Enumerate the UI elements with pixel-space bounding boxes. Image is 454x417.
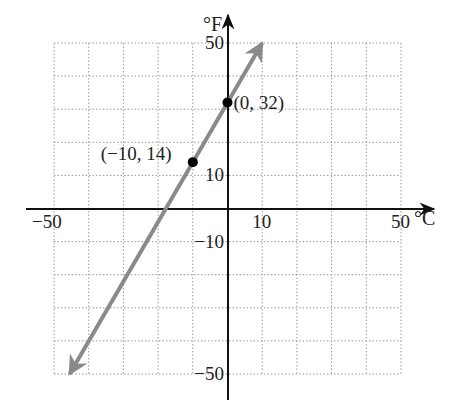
- y-tick-label: −10: [194, 231, 224, 252]
- y-axis-label: °F: [203, 13, 222, 35]
- x-axis-label: °C: [414, 207, 435, 229]
- point-label: (−10, 14): [101, 143, 172, 165]
- data-point: [188, 157, 198, 167]
- point-label: (0, 32): [234, 92, 285, 114]
- data-point: [223, 98, 233, 108]
- x-tick-label: 50: [391, 211, 410, 232]
- x-tick-label: −50: [32, 211, 62, 232]
- temperature-conversion-chart: (0, 32)(−10, 14) −5010505010−10−50 °F °C: [0, 0, 454, 417]
- y-tick-label: −50: [194, 363, 224, 384]
- x-tick-label: 10: [252, 211, 271, 232]
- y-tick-label: 10: [205, 164, 224, 185]
- y-tick-label: 50: [205, 32, 224, 53]
